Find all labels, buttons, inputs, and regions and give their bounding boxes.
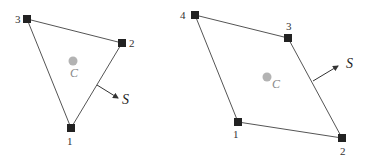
- vertex-label: 2: [129, 37, 135, 49]
- normal-vector-arrow: [313, 66, 338, 81]
- centroid-dot: [263, 73, 272, 82]
- normal-vector-label: S: [122, 92, 129, 107]
- normal-vector-label: S: [346, 56, 353, 71]
- vertex-node: [191, 11, 199, 19]
- normal-vector-arrow: [97, 85, 118, 98]
- centroid-label: C: [272, 77, 281, 91]
- vertex-node: [338, 134, 346, 142]
- vertex-label: 1: [67, 135, 73, 147]
- triangle-diagram: SC123: [15, 13, 135, 147]
- vertex-label: 2: [340, 145, 346, 157]
- vertex-node: [67, 124, 75, 132]
- vertex-label: 1: [233, 128, 239, 140]
- vertex-label: 4: [180, 9, 186, 21]
- vertex-node: [234, 118, 242, 126]
- vertex-label: 3: [286, 20, 292, 32]
- centroid-dot: [69, 57, 78, 66]
- quadrilateral-diagram: SC1234: [180, 9, 353, 157]
- geometry-diagram: SC123SC1234: [0, 0, 365, 166]
- vertex-node: [23, 15, 31, 23]
- vertex-label: 3: [15, 13, 21, 25]
- vertex-node: [284, 34, 292, 42]
- centroid-label: C: [70, 66, 79, 80]
- vertex-node: [118, 39, 126, 47]
